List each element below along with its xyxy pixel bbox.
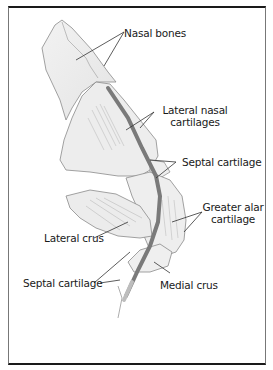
label-line: Lateral nasal bbox=[153, 104, 237, 116]
label-nasal-bones: Nasal bones bbox=[124, 27, 186, 39]
label-septal-cartilage-lower: Septal cartilage bbox=[23, 277, 102, 289]
label-line: Greater alar bbox=[198, 201, 268, 213]
label-line: cartilages bbox=[153, 116, 237, 128]
label-lateral-nasal-cartilages: Lateral nasal cartilages bbox=[153, 104, 237, 128]
label-lateral-crus: Lateral crus bbox=[44, 232, 104, 244]
label-septal-cartilage-upper: Septal cartilage bbox=[182, 156, 261, 168]
label-line: cartilage bbox=[198, 213, 268, 225]
nose-anatomy-illustration bbox=[0, 0, 273, 370]
label-medial-crus: Medial crus bbox=[160, 279, 218, 291]
label-greater-alar-cartilage: Greater alar cartilage bbox=[198, 201, 268, 225]
